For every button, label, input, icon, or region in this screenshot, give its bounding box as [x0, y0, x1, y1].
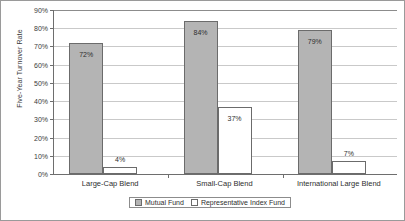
chart-container: Five-Year Turnover Rate 90%80%70%60%50%4…: [0, 0, 405, 221]
bar-value-label: 4%: [103, 156, 137, 163]
gridline: [54, 10, 397, 11]
gridline: [54, 65, 397, 66]
legend-item[interactable]: Representative Index Fund: [191, 199, 285, 206]
y-axis-tick-label: 50%: [34, 79, 48, 86]
y-axis-tick-label: 90%: [34, 7, 48, 14]
bar-index-fund[interactable]: [103, 167, 137, 174]
y-axis-tick: [50, 46, 54, 47]
y-axis-tick-label: 40%: [34, 98, 48, 105]
y-axis-tick: [50, 138, 54, 139]
legend-item[interactable]: Mutual Fund: [135, 199, 184, 206]
bar-mutual-fund[interactable]: [298, 30, 332, 174]
bar-value-label: 79%: [298, 38, 332, 45]
x-axis-category-label: Small-Cap Blend: [167, 179, 281, 188]
y-axis-tick: [50, 101, 54, 102]
category-separator-tick: [283, 174, 284, 178]
plot-area: 72%4%84%37%79%7%: [53, 10, 397, 175]
bar-value-label: 84%: [184, 29, 218, 36]
y-axis-tick-label: 70%: [34, 43, 48, 50]
bar-mutual-fund[interactable]: [184, 21, 218, 174]
bar-value-label: 7%: [332, 150, 366, 157]
gridline: [54, 101, 397, 102]
chart-legend: Mutual FundRepresentative Index Fund: [129, 197, 291, 208]
category-separator-tick: [168, 174, 169, 178]
x-axis-category-label: International Large Blend: [282, 179, 396, 188]
y-axis-tick-label: 0%: [38, 171, 48, 178]
bar-index-fund[interactable]: [332, 161, 366, 174]
gridline: [54, 28, 397, 29]
y-axis-tick: [50, 174, 54, 175]
y-axis-tick: [50, 10, 54, 11]
y-axis-tick: [50, 156, 54, 157]
y-axis-title: Five-Year Turnover Rate: [16, 0, 23, 139]
gridline: [54, 46, 397, 47]
gridline: [54, 83, 397, 84]
y-axis-tick: [50, 65, 54, 66]
legend-swatch-icon: [135, 199, 142, 206]
x-axis-category-label: Large-Cap Blend: [53, 179, 167, 188]
legend-swatch-icon: [191, 199, 198, 206]
y-axis-tick-label: 10%: [34, 152, 48, 159]
legend-label: Representative Index Fund: [201, 199, 285, 206]
y-axis-tick: [50, 83, 54, 84]
bar-value-label: 37%: [218, 115, 252, 122]
legend-label: Mutual Fund: [145, 199, 184, 206]
y-axis-tick-label: 20%: [34, 134, 48, 141]
y-axis-tick: [50, 28, 54, 29]
bar-value-label: 72%: [69, 51, 103, 58]
bar-mutual-fund[interactable]: [69, 43, 103, 174]
y-axis-tick-label: 30%: [34, 116, 48, 123]
y-axis-tick: [50, 119, 54, 120]
y-axis-tick-label: 60%: [34, 61, 48, 68]
y-axis-tick-label: 80%: [34, 25, 48, 32]
